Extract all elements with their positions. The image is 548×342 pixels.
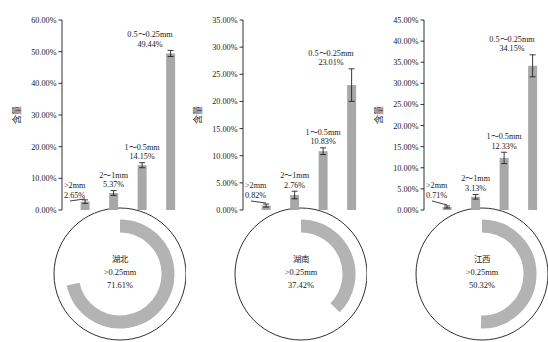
bar-size-label-1: 2～1mm (99, 171, 129, 180)
donut-value-label: 37.42% (288, 281, 314, 290)
y-tick-label: 20.00% (212, 97, 237, 106)
y-tick-label: 40.00% (393, 37, 418, 46)
y-tick-label: 15.00% (212, 125, 237, 134)
donut-湖北: 湖北>0.25mm71.61% (54, 208, 186, 340)
y-tick-label: 5.00% (397, 185, 418, 194)
y-tick-label: 0.00% (397, 206, 418, 215)
bar-group-3: 0.5～0.25mm49.44% (127, 30, 175, 210)
bar-size-label-1: 2～1mm (461, 174, 491, 183)
panel-江西: 江西>0.25mm50.32%0.00%5.00%10.00%15.00%20.… (367, 0, 548, 342)
bar-size-label-3: 0.5～0.25mm (489, 35, 535, 44)
bar-value-label-3: 49.44% (137, 40, 162, 49)
y-tick-label: 50.00% (31, 48, 56, 57)
donut-region-label: 湖南 (293, 254, 309, 264)
bar-value-label-3: 23.01% (318, 58, 343, 67)
bar-group-2: 1～0.5mm10.83% (306, 128, 342, 210)
bar-1～0.5mm (500, 158, 509, 210)
y-tick-label: 30.00% (393, 79, 418, 88)
bar-value-label-3: 34.15% (499, 44, 524, 53)
y-tick-label: 10.00% (31, 174, 56, 183)
y-tick-label: 20.00% (31, 143, 56, 152)
bar-1～0.5mm (138, 165, 147, 210)
panel-湖南: 湖南>0.25mm37.42%0.00%5.00%10.00%15.00%20.… (186, 0, 367, 342)
panel-湖北: 湖北>0.25mm71.61%0.00%10.00%20.00%30.00%40… (0, 0, 186, 342)
panel-chart-1: 湖南>0.25mm37.42%0.00%5.00%10.00%15.00%20.… (186, 0, 367, 342)
bar-size-label-2: 1～0.5mm (125, 143, 161, 152)
donut-size-label: >0.25mm (285, 268, 318, 277)
y-axis-title: 含量 (373, 106, 384, 124)
bar-value-label-2: 14.15% (129, 152, 154, 161)
bar-group-1: 2～1mm3.13% (461, 174, 491, 210)
bar-size-label-2: 1～0.5mm (487, 132, 523, 141)
y-tick-label: 60.00% (31, 16, 56, 25)
bar-0.5～0.25mm (347, 85, 356, 210)
y-tick-label: 25.00% (393, 100, 418, 109)
figure-root: 湖北>0.25mm71.61%0.00%10.00%20.00%30.00%40… (0, 0, 548, 342)
bar-value-label-2: 12.33% (491, 142, 516, 151)
bar-value-label-2: 10.83% (310, 137, 335, 146)
bar-group-0: >2mm0.71% (426, 181, 452, 210)
y-tick-label: 45.00% (393, 16, 418, 25)
donut-湖南: 湖南>0.25mm37.42% (235, 208, 367, 340)
bar-value-label-1: 5.37% (103, 180, 124, 189)
y-tick-label: 30.00% (31, 111, 56, 120)
bar-size-label-3: 0.5～0.25mm (308, 49, 354, 58)
donut-江西: 江西>0.25mm50.32% (416, 208, 548, 340)
y-tick-label: 30.00% (212, 43, 237, 52)
bar-value-label-1: 3.13% (465, 184, 486, 193)
y-tick-label: 5.00% (216, 179, 237, 188)
bar-group-2: 1～0.5mm14.15% (125, 143, 161, 210)
donut-value-label: 50.32% (469, 281, 495, 290)
bar-0.5～0.25mm (166, 53, 175, 210)
bar-value-label-1: 2.76% (284, 181, 305, 190)
bar-group-3: 0.5～0.25mm34.15% (489, 35, 537, 210)
bar-size-label-1: 2～1mm (280, 171, 310, 180)
bar-value-label-0: 0.71% (426, 191, 447, 200)
y-tick-label: 20.00% (393, 122, 418, 131)
panel-chart-2: 江西>0.25mm50.32%0.00%5.00%10.00%15.00%20.… (367, 0, 548, 342)
y-tick-label: 0.00% (216, 206, 237, 215)
bar-value-label-0: 0.82% (245, 191, 266, 200)
bar-size-label-0: >2mm (245, 181, 267, 190)
bar-size-label-0: >2mm (426, 181, 448, 190)
bar-value-label-0: 2.65% (64, 191, 85, 200)
y-tick-label: 35.00% (393, 58, 418, 67)
bar-size-label-2: 1～0.5mm (306, 128, 342, 137)
y-tick-label: 0.00% (35, 206, 56, 215)
bar-1～0.5mm (319, 151, 328, 210)
donut-value-label: 71.61% (107, 281, 133, 290)
bar-group-0: >2mm2.65% (64, 181, 90, 210)
bar-group-2: 1～0.5mm12.33% (487, 132, 523, 210)
y-tick-label: 15.00% (393, 143, 418, 152)
bar-group-0: >2mm0.82% (245, 181, 271, 210)
bar-leader-line-0 (432, 201, 447, 205)
y-tick-label: 10.00% (393, 164, 418, 173)
donut-size-label: >0.25mm (104, 268, 137, 277)
panel-chart-0: 湖北>0.25mm71.61%0.00%10.00%20.00%30.00%40… (0, 0, 186, 342)
donut-region-label: 湖北 (112, 254, 129, 264)
bar-leader-line-0 (251, 201, 266, 203)
bar-0.5～0.25mm (528, 66, 537, 210)
y-tick-label: 40.00% (31, 79, 56, 88)
y-tick-label: 25.00% (212, 70, 237, 79)
y-axis-title: 含量 (192, 106, 203, 124)
y-tick-label: 35.00% (212, 16, 237, 25)
y-axis-title: 含量 (11, 106, 22, 124)
bar-size-label-0: >2mm (64, 181, 86, 190)
y-tick-label: 10.00% (212, 152, 237, 161)
donut-size-label: >0.25mm (466, 268, 499, 277)
bar-group-1: 2～1mm2.76% (280, 171, 310, 210)
bar-size-label-3: 0.5～0.25mm (127, 30, 173, 39)
bar-group-1: 2～1mm5.37% (99, 171, 129, 210)
donut-region-label: 江西 (474, 254, 490, 264)
